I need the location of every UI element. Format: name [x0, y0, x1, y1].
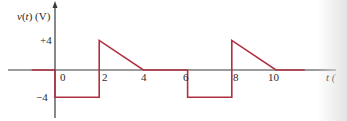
voltage-axis-arrow-icon: [53, 1, 58, 8]
waveform-chart: v(t) (V) +4 −4 0 2 4 6 8 10 t (: [0, 0, 347, 121]
y-axis-label: v(t) (V): [17, 10, 51, 23]
x-tick-label-8: 8: [233, 71, 239, 83]
y-tick-label-plus4: +4: [40, 34, 52, 46]
x-tick-label-10: 10: [268, 71, 280, 83]
x-tick-label-0: 0: [60, 71, 66, 83]
y-tick-label-minus4: −4: [36, 91, 48, 103]
x-tick-label-4: 4: [141, 71, 147, 83]
x-axis-label: t (: [326, 71, 337, 84]
x-tick-label-2: 2: [102, 71, 108, 83]
x-tick-label-6: 6: [183, 71, 189, 83]
waveform-line: [32, 40, 305, 97]
chart-canvas: v(t) (V) +4 −4 0 2 4 6 8 10 t (: [0, 0, 347, 121]
